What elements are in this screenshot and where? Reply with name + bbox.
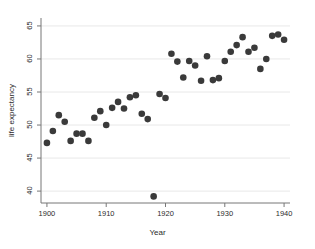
data-point [239, 34, 246, 41]
data-point [150, 193, 157, 200]
y-tick-label-55: 55 [25, 84, 34, 100]
data-point [97, 108, 104, 115]
data-point [115, 99, 122, 106]
data-point [281, 37, 288, 44]
data-point [73, 130, 80, 137]
data-point [186, 58, 193, 65]
data-point [103, 122, 110, 129]
data-point [61, 118, 68, 125]
x-tick-label-1910: 1910 [98, 209, 115, 218]
y-tick-label-65: 65 [25, 17, 34, 33]
chart-figure: 19001910192019301940 404550556065 Year l… [0, 0, 315, 249]
data-point [245, 48, 252, 55]
data-point [133, 92, 140, 99]
data-point [144, 116, 151, 123]
data-point [85, 138, 92, 145]
data-point [198, 77, 205, 84]
y-axis-title-wrapper: life expectancy [0, 18, 20, 203]
data-point [156, 91, 163, 98]
data-point [50, 128, 57, 135]
data-point [251, 44, 258, 51]
data-point [174, 58, 181, 65]
data-point [192, 62, 199, 69]
data-point [233, 42, 240, 49]
y-axis-title: life expectancy [6, 18, 18, 203]
data-point [257, 66, 264, 73]
data-point [127, 94, 134, 101]
x-tick-label-1920: 1920 [157, 209, 174, 218]
scatter-points [41, 18, 290, 203]
x-axis-title: Year [0, 228, 315, 237]
data-point [138, 111, 145, 118]
x-tick-label-1940: 1940 [276, 209, 293, 218]
data-point [109, 105, 116, 112]
data-point [55, 112, 62, 119]
x-tick-label-1900: 1900 [39, 209, 56, 218]
y-tick-label-50: 50 [25, 117, 34, 133]
data-point [44, 140, 51, 147]
x-tick-label-1930: 1930 [216, 209, 233, 218]
data-point [263, 56, 270, 63]
data-point [180, 74, 187, 81]
data-point [162, 95, 169, 102]
data-point [204, 53, 211, 60]
data-point [221, 58, 228, 65]
y-tick-label-45: 45 [25, 150, 34, 166]
data-point [91, 114, 98, 121]
y-tick-label-60: 60 [25, 50, 34, 66]
data-point [275, 31, 282, 38]
data-point [79, 130, 86, 137]
plot-area [41, 18, 290, 203]
data-point [216, 75, 223, 82]
data-point [168, 50, 175, 57]
data-point [210, 77, 217, 84]
data-point [67, 138, 74, 145]
data-point [227, 48, 234, 55]
data-point [121, 105, 128, 112]
data-point [269, 33, 276, 40]
y-tick-label-40: 40 [25, 183, 34, 199]
